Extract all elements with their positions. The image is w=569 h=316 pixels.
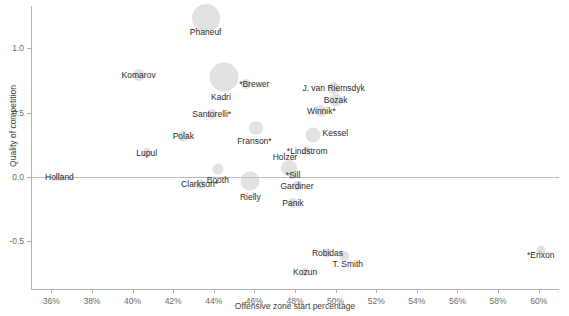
data-point-label: Kozun: [293, 267, 317, 277]
x-tick-mark: [214, 289, 215, 293]
y-tick-mark: [27, 113, 31, 114]
data-point-label: Lupul: [136, 148, 157, 158]
data-point-label: Bozak: [324, 95, 348, 105]
x-tick-mark: [498, 289, 499, 293]
data-point-bubble[interactable]: [212, 164, 223, 175]
plot-area: 1.00.50.0-0.5 36%38%40%42%44%46%48%50%52…: [31, 6, 559, 289]
data-point-label: Gardiner: [280, 181, 313, 191]
data-point-bubble[interactable]: [306, 127, 321, 142]
data-point-label: Santorelli*: [192, 109, 231, 119]
x-tick-mark: [295, 289, 296, 293]
x-tick-mark: [417, 289, 418, 293]
x-axis-title: Offensive zone start percentage: [31, 301, 559, 311]
data-point-label: Holland: [45, 172, 74, 182]
y-tick-label: -0.5: [9, 236, 24, 246]
x-tick-mark: [173, 289, 174, 293]
data-point-label: *Brewer: [239, 79, 269, 89]
data-point-label: Clarkson*: [181, 179, 218, 189]
x-tick-mark: [457, 289, 458, 293]
data-point-label: T. Smith: [332, 259, 363, 269]
x-tick-mark: [133, 289, 134, 293]
data-point-label: Komarov: [122, 70, 156, 80]
data-point-label: Holzer: [273, 152, 298, 162]
data-point-label: *Sill: [286, 170, 301, 180]
x-tick-mark: [336, 289, 337, 293]
y-tick-mark: [27, 48, 31, 49]
data-point-bubble[interactable]: [209, 62, 238, 91]
data-point-bubble[interactable]: [249, 121, 263, 135]
x-tick-mark: [539, 289, 540, 293]
data-point-label: Franson*: [237, 136, 272, 146]
data-point-label: Phaneuf: [190, 27, 222, 37]
data-point-label: Kessel: [323, 128, 349, 138]
x-tick-mark: [376, 289, 377, 293]
scatter-chart: 1.00.50.0-0.5 36%38%40%42%44%46%48%50%52…: [0, 0, 569, 316]
y-axis-title: Quality of competition: [8, 51, 18, 201]
x-tick-mark: [51, 289, 52, 293]
data-point-label: Robidas: [312, 248, 343, 258]
data-point-label: *Erixon: [527, 250, 554, 260]
y-axis-line: [31, 6, 32, 289]
data-point-label: Winnik*: [307, 106, 336, 116]
data-point-label: Panik: [282, 198, 303, 208]
data-point-label: Rielly: [240, 192, 261, 202]
data-point-bubble[interactable]: [241, 171, 260, 190]
data-point-label: J. van Riemsdyk: [302, 83, 364, 93]
data-point-label: Kadri: [211, 92, 231, 102]
data-point-label: Polak: [173, 131, 194, 141]
x-tick-mark: [92, 289, 93, 293]
x-tick-mark: [254, 289, 255, 293]
y-tick-mark: [27, 241, 31, 242]
y-tick-mark: [27, 177, 31, 178]
